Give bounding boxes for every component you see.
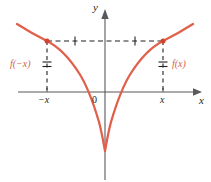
- y-axis-label: y: [93, 2, 98, 13]
- annotation-f-of-negative-x: f(−x): [10, 59, 31, 69]
- x-axis-label: x: [199, 95, 204, 106]
- even-function-figure: y x 0 −x x f(−x) f(x): [0, 0, 211, 182]
- tick-label-positive-x: x: [160, 95, 164, 105]
- tick-label-negative-x: −x: [38, 95, 49, 105]
- y-axis: [101, 9, 108, 180]
- graph-canvas: [0, 0, 211, 182]
- right-vertical-dashed-line: [159, 41, 168, 92]
- annotation-f-of-x: f(x): [172, 59, 186, 69]
- origin-label: 0: [92, 95, 97, 105]
- left-vertical-dashed-line: [43, 41, 52, 92]
